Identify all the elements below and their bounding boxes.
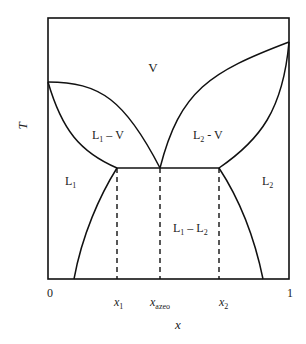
region-l1-v: L1 – V [92, 128, 124, 144]
solubility-curve-right [219, 168, 263, 279]
region-l2: L2 [262, 174, 273, 190]
region-l1: L1 [65, 174, 76, 190]
dew-curve-right [160, 42, 289, 168]
solubility-curve-left [74, 168, 117, 279]
region-l1-l2: L1 – L2 [173, 221, 208, 237]
region-vapor: V [148, 60, 158, 75]
x-max-label: 1 [287, 286, 293, 300]
region-l2-v: L2 - V [193, 128, 223, 144]
tick-x1: x1 [113, 295, 123, 311]
tick-xazeo: xazeo [149, 295, 170, 311]
phase-diagram: V L1 – V L2 - V L1 L2 L1 – L2 0 1 x1 xaz… [0, 0, 306, 344]
bubble-curve-left [48, 82, 117, 168]
x-axis-label: x [174, 317, 181, 332]
x-min-label: 0 [47, 286, 53, 300]
bubble-curve-right [219, 42, 289, 168]
tick-x2: x2 [218, 295, 228, 311]
y-axis-label: T [15, 122, 30, 130]
